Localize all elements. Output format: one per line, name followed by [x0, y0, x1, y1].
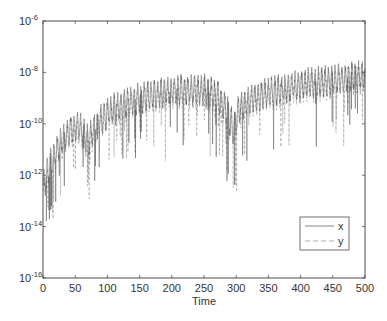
legend-label-y: y [338, 235, 344, 247]
x-tick-label: 50 [69, 282, 81, 294]
x-axis-title: Time [192, 295, 216, 307]
y-tick-label: 10-12 [19, 167, 42, 181]
legend-label-x: x [338, 220, 344, 232]
x-tick-label: 450 [324, 282, 342, 294]
x-tick-label: 200 [163, 282, 181, 294]
y-tick-label: 10-6 [19, 13, 38, 27]
x-tick-label: 100 [98, 282, 116, 294]
x-tick-label: 500 [356, 282, 374, 294]
x-tick-label: 0 [40, 282, 46, 294]
chart-canvas: 050100150200250300350400450500 10-610-81… [0, 0, 387, 321]
x-tick-label: 300 [227, 282, 245, 294]
y-tick-label: 10-14 [19, 219, 42, 233]
x-tick-label: 350 [259, 282, 277, 294]
y-tick-label: 10-16 [19, 270, 42, 284]
series-layer [43, 60, 365, 221]
series-x-line [43, 60, 365, 221]
x-tick-label: 400 [291, 282, 309, 294]
x-tick-label: 150 [130, 282, 148, 294]
legend: x y [300, 217, 349, 250]
x-tick-label: 250 [195, 282, 213, 294]
y-tick-label: 10-10 [19, 116, 42, 130]
y-tick-label: 10-8 [19, 64, 38, 78]
